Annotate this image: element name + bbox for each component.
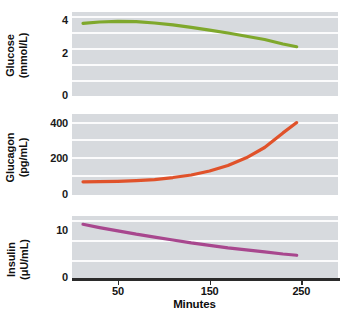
physiology-multipanel-chart: Glucose (mmol/L) 4 2 0 Glucagon (pg/mL) [0,0,359,312]
plot-area-glucagon [72,114,338,195]
y-tick-insulin-10: 10 [56,225,68,236]
y-axis-series-name-glucagon: Glucagon [5,132,18,182]
x-tick-label-50: 50 [112,285,124,297]
plot-area-insulin [72,216,338,278]
plot-area-glucose [72,12,338,96]
y-tick-glucagon-200: 200 [50,153,68,164]
x-axis-title-label: Minutes [173,298,216,310]
x-tick-label-150: 150 [201,285,219,297]
y-tick-glucose-4: 4 [62,15,68,26]
y-tick-insulin-0: 0 [62,272,68,283]
curve-glucagon [72,114,338,195]
x-tick-label-250: 250 [292,285,310,297]
x-axis-title: Minutes [0,298,359,310]
y-tick-glucose-0: 0 [62,90,68,101]
y-tick-labels-glucagon: 400 200 0 [26,103,68,211]
y-tick-glucose-2: 2 [62,48,68,59]
y-tick-glucagon-400: 400 [50,118,68,129]
curve-insulin [72,216,338,278]
y-tick-glucagon-0: 0 [62,189,68,200]
curve-glucose [72,12,338,96]
y-tick-labels-insulin: 10 0 [26,206,68,312]
x-axis-line [72,278,340,281]
y-tick-labels-glucose: 4 2 0 [26,0,68,110]
panel-glucagon: Glucagon (pg/mL) 400 200 0 [0,103,359,211]
panel-glucose: Glucose (mmol/L) 4 2 0 [0,0,359,110]
y-axis-series-name-glucose: Glucose [5,32,18,78]
y-axis-series-name-insulin: Insulin [5,239,18,280]
